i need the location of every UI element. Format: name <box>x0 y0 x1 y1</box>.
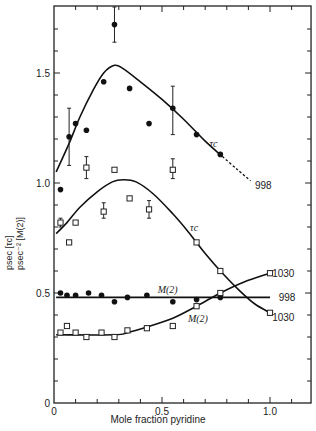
y-axis-label-line1: psec [τc] <box>4 217 15 270</box>
y-axis-label: psec [τc] psec⁻² [M(2)] <box>4 150 44 270</box>
svg-text:τc: τc <box>210 138 219 149</box>
svg-text:τc: τc <box>190 222 199 233</box>
svg-text:0.5: 0.5 <box>36 288 50 299</box>
svg-text:998: 998 <box>279 292 296 303</box>
svg-text:1.5: 1.5 <box>36 68 50 79</box>
svg-text:M(2): M(2) <box>187 313 209 325</box>
x-axis-label: Mole fraction pyridine <box>0 414 316 425</box>
plot-frame <box>54 6 311 403</box>
svg-text:M(2): M(2) <box>157 284 179 296</box>
svg-text:998: 998 <box>255 180 272 191</box>
svg-text:1030: 1030 <box>272 312 295 323</box>
axis-ticks: 00.51.000.51.01.5 <box>36 6 311 417</box>
svg-text:0: 0 <box>44 398 50 409</box>
svg-text:1030: 1030 <box>272 268 295 279</box>
chart-plot: 00.51.000.51.01.5 τcτcM(2)M(2)9981030998… <box>0 0 316 431</box>
y-axis-label-line2: psec⁻² [M(2)] <box>15 217 26 270</box>
